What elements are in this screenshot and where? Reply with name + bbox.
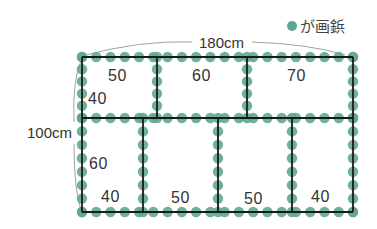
bottom-cell-3-width: 50 (244, 191, 263, 207)
height-dimension-label: 100cm (27, 125, 72, 140)
top-cell-1-width: 50 (108, 68, 127, 84)
bottom-cell-1-width: 40 (101, 189, 120, 205)
top-cell-3-width: 70 (287, 68, 306, 84)
top-cell-2-width: 60 (192, 68, 211, 84)
pin-layout-diagram: が画鋲 180cm 100cm 50 60 70 40 60 40 50 50 … (0, 0, 377, 229)
width-dimension-label: 180cm (196, 35, 247, 50)
legend-label: が画鋲 (300, 15, 345, 36)
bottom-row-height: 60 (89, 156, 108, 172)
bottom-cell-4-width: 40 (311, 189, 330, 205)
top-row-height: 40 (88, 91, 107, 107)
legend: が画鋲 (287, 15, 345, 36)
pin-dot-icon (287, 21, 297, 31)
bottom-cell-2-width: 50 (171, 190, 190, 206)
